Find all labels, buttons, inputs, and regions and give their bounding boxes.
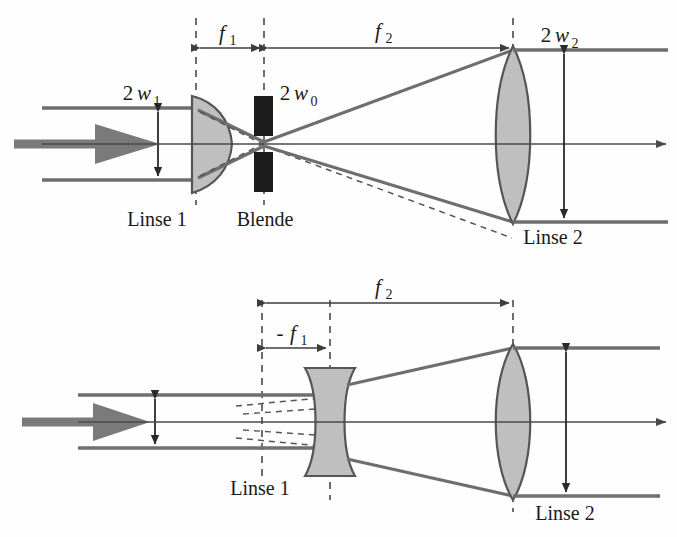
2w2-label-base: w xyxy=(555,23,569,47)
f2-label-sub-bottom: 2 xyxy=(386,287,393,302)
minus-f1-label-sub: 1 xyxy=(301,333,308,348)
bottom-diagram-galilean: f 2 - f 1 xyxy=(22,275,666,524)
2w1-label-base: w xyxy=(137,81,151,105)
caption-linse1-bottom: Linse 1 xyxy=(230,477,289,499)
2w2-label-sub: 2 xyxy=(572,36,579,51)
f2-label-sub: 2 xyxy=(386,31,393,46)
2w0-label-prefix: 2 xyxy=(280,81,291,105)
dimension-minus-f1: - f 1 xyxy=(266,321,326,348)
minus-f1-label-prefix: - xyxy=(277,321,284,345)
diverging-ray-lower xyxy=(264,146,513,222)
dashed-ideal-ray-diverging-lower xyxy=(264,146,512,238)
diverging-ray-upper-bottom xyxy=(347,348,513,385)
f2-label-base: f xyxy=(375,19,384,43)
f2-label-base-bottom: f xyxy=(375,275,384,299)
dimension-2w1: 2 w 1 xyxy=(123,81,161,176)
minus-f1-label-base: f xyxy=(290,321,299,345)
dimension-2w2: 2 w 2 xyxy=(541,23,579,218)
caption-linse2-top: Linse 2 xyxy=(523,226,582,248)
dimension-2w0: 2 w 0 xyxy=(280,81,318,109)
2w0-label-sub: 0 xyxy=(311,94,318,109)
2w0-label-base: w xyxy=(294,81,308,105)
2w1-label-sub: 1 xyxy=(154,94,161,109)
2w1-label-prefix: 2 xyxy=(123,81,134,105)
optics-figure: f 1 f 2 2 w 1 xyxy=(0,0,677,537)
caption-blende: Blende xyxy=(237,208,294,230)
lens2-biconvex-top xyxy=(496,46,531,224)
diverging-ray-lower-bottom xyxy=(347,459,513,496)
f1-label-sub: 1 xyxy=(230,33,237,48)
f1-label-base: f xyxy=(219,21,228,45)
optics-diagram-canvas: f 1 f 2 2 w 1 xyxy=(0,0,677,537)
top-diagram-keplerian: f 1 f 2 2 w 1 xyxy=(14,18,668,248)
blende-lower-bar xyxy=(254,152,273,192)
dimension-f2-top: f 2 xyxy=(268,19,509,48)
blende-upper-bar xyxy=(254,96,273,136)
dimension-f1-top: f 1 xyxy=(200,21,260,48)
caption-linse1-top: Linse 1 xyxy=(127,208,186,230)
2w2-label-prefix: 2 xyxy=(541,23,552,47)
caption-linse2-bottom: Linse 2 xyxy=(535,502,594,524)
dimension-f2-bottom: f 2 xyxy=(266,275,509,303)
